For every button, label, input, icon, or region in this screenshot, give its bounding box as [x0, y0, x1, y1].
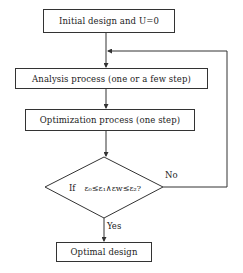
- no-edge-label: No: [165, 170, 178, 180]
- end-node: Optimal design: [56, 242, 152, 262]
- optimization-node: Optimization process (one step): [25, 109, 195, 131]
- yes-edge-label: Yes: [107, 221, 121, 231]
- flowchart-connectors: [0, 0, 243, 273]
- analysis-node: Analysis process (one or a few step): [15, 68, 208, 89]
- analysis-node-label: Analysis process (one or a few step): [32, 74, 191, 84]
- end-node-label: Optimal design: [71, 247, 138, 257]
- decision-node-text: If ε₀≤ε₁∧εw≤ε₂?: [55, 180, 155, 196]
- start-node-label: Initial design and U=0: [59, 16, 159, 26]
- start-node: Initial design and U=0: [43, 9, 175, 33]
- decision-condition: ε₀≤ε₁∧εw≤ε₂?: [84, 184, 141, 193]
- optimization-node-label: Optimization process (one step): [40, 115, 180, 125]
- decision-prefix: If: [69, 183, 76, 193]
- flowchart-canvas: Initial design and U=0 Analysis process …: [0, 0, 243, 273]
